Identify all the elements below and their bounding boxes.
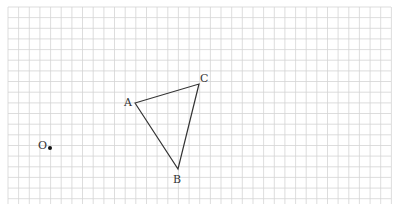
grid-lines: [8, 7, 391, 204]
label-o: O: [38, 139, 47, 152]
point-o-dot: [48, 146, 52, 150]
label-c: C: [200, 72, 208, 85]
label-a: A: [123, 96, 133, 109]
label-b: B: [173, 173, 181, 186]
grid-diagram: O A B C: [0, 0, 397, 209]
